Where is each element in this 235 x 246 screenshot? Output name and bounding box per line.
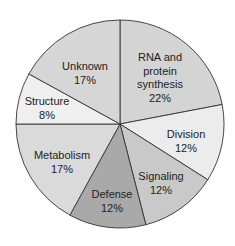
slice-label-rna-and-protein-synthesis: RNA andproteinsynthesis22% [137,51,183,105]
slice-label-defense: Defense12% [92,188,133,215]
slice-label-unknown: Unknown17% [62,60,108,87]
slice-label-signaling: Signaling12% [138,170,183,197]
slice-percent: 12% [92,201,133,215]
slice-label-division: Division12% [167,128,206,155]
slice-percent: 12% [138,183,183,197]
slice-name: Signaling [138,170,183,184]
slice-percent: 17% [34,162,90,176]
slice-name: Division [167,128,206,142]
slice-name: Structure [25,95,70,109]
slice-percent: 17% [62,73,108,87]
slice-name: protein [137,65,183,79]
slice-label-metabolism: Metabolism17% [34,149,90,176]
slice-name: RNA and [137,51,183,65]
slice-name: synthesis [137,78,183,92]
slice-percent: 22% [137,92,183,106]
slice-percent: 8% [25,108,70,122]
slice-name: Defense [92,188,133,202]
slice-label-structure: Structure8% [25,95,70,122]
slice-percent: 12% [167,141,206,155]
slice-name: Unknown [62,60,108,74]
slice-name: Metabolism [34,149,90,163]
